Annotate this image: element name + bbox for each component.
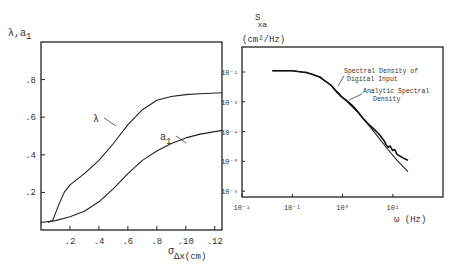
x-tick-label: 10⁻¹ [284, 204, 301, 212]
x-tick-label: .2 [65, 237, 76, 247]
x-tick-label: 10⁻² [234, 204, 251, 212]
x-tick-label: .10 [178, 237, 194, 247]
lambda-pointer [104, 118, 116, 126]
left-chart: .2.4.6.8 .2.4.6.8.10.12 λ,a1 σΔx(cm) λ a… [8, 28, 223, 262]
left-x-axis-label: σΔx(cm) [168, 246, 206, 262]
y-tick-label: 10⁻² [221, 69, 238, 77]
series-line-λ [48, 93, 222, 223]
right-series [272, 71, 408, 172]
lambda-label: λ [93, 114, 99, 125]
right-x-axis-label: ω (Hz) [394, 215, 426, 225]
x-tick-label: 10⁰ [336, 204, 349, 212]
y-tick-label: 10⁻⁴ [221, 129, 238, 137]
annotation-analytic-line1: Analytic Spectral [363, 88, 429, 95]
y-tick-label: .4 [25, 151, 36, 161]
y-tick-label: 10⁻³ [221, 99, 238, 107]
x-tick-label: .12 [207, 237, 223, 247]
x-tick-label: .8 [151, 237, 162, 247]
annotation-digital-pointer [338, 76, 344, 86]
x-tick-label: .6 [122, 237, 133, 247]
a1-pointer [176, 136, 186, 143]
a1-label: a1 [160, 132, 171, 147]
series-line-a1 [41, 130, 222, 222]
y-tick-label: 10⁻⁶ [221, 188, 238, 196]
x-tick-label: 10¹ [387, 204, 400, 212]
y-tick-label: 10⁻⁵ [221, 158, 238, 166]
annotation-analytic-pointer [349, 94, 362, 100]
series-line-digital [272, 71, 408, 160]
x-tick-label: .4 [94, 237, 105, 247]
left-series [41, 93, 222, 223]
y-tick-label: .2 [25, 188, 36, 198]
left-y-axis-label: λ,a1 [8, 28, 31, 42]
figure: .2.4.6.8 .2.4.6.8.10.12 λ,a1 σΔx(cm) λ a… [0, 0, 451, 272]
annotation-digital-line2: Digital Input [347, 76, 398, 83]
right-y-axis-label-symbol: Sxa [255, 13, 267, 29]
annotation-digital-line1: Spectral Density of [344, 68, 418, 75]
annotation-analytic-line2: Density [373, 96, 400, 103]
right-y-axis-label-units: (cm²/Hz) [242, 35, 285, 45]
y-tick-label: .8 [25, 76, 36, 86]
right-chart: 10⁻²10⁻³10⁻⁴10⁻⁵10⁻⁶ 10⁻²10⁻¹10⁰10¹ Sxa … [221, 13, 443, 225]
y-tick-label: .6 [25, 113, 36, 123]
left-x-ticks: .2.4.6.8.10.12 [65, 226, 223, 247]
left-y-ticks: .2.4.6.8 [25, 76, 45, 199]
series-line-analytic [272, 71, 408, 172]
